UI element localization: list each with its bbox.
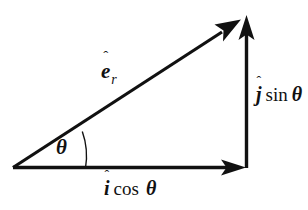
e-hat-subscript: r: [111, 72, 116, 87]
j-hat-accent-icon: ˆ: [256, 75, 261, 89]
horizontal-component-label: ˆicosθ: [104, 178, 156, 198]
sin-operator: sin: [266, 84, 288, 105]
vertical-component-label: ˆjsinθ: [256, 84, 302, 104]
resultant-vector: [13, 20, 241, 168]
angle-label: θ: [56, 137, 67, 158]
horizontal-angle-symbol: θ: [146, 177, 156, 199]
angle-arc: [82, 132, 86, 169]
vector-decomposition-diagram: ˆer ˆjsinθ ˆicosθ θ: [0, 0, 308, 210]
resultant-vector-arrowhead: [215, 20, 242, 42]
resultant-vector-shaft: [13, 32, 222, 168]
vertical-angle-symbol: θ: [292, 83, 302, 105]
resultant-vector-label: ˆer: [101, 61, 116, 82]
horizontal-component-vector: [13, 160, 246, 176]
i-hat-accent-icon: ˆ: [104, 169, 109, 183]
e-hat-accent-icon: ˆ: [103, 49, 108, 64]
vertical-component-vector: [239, 15, 255, 168]
cos-operator: cos: [114, 178, 139, 199]
